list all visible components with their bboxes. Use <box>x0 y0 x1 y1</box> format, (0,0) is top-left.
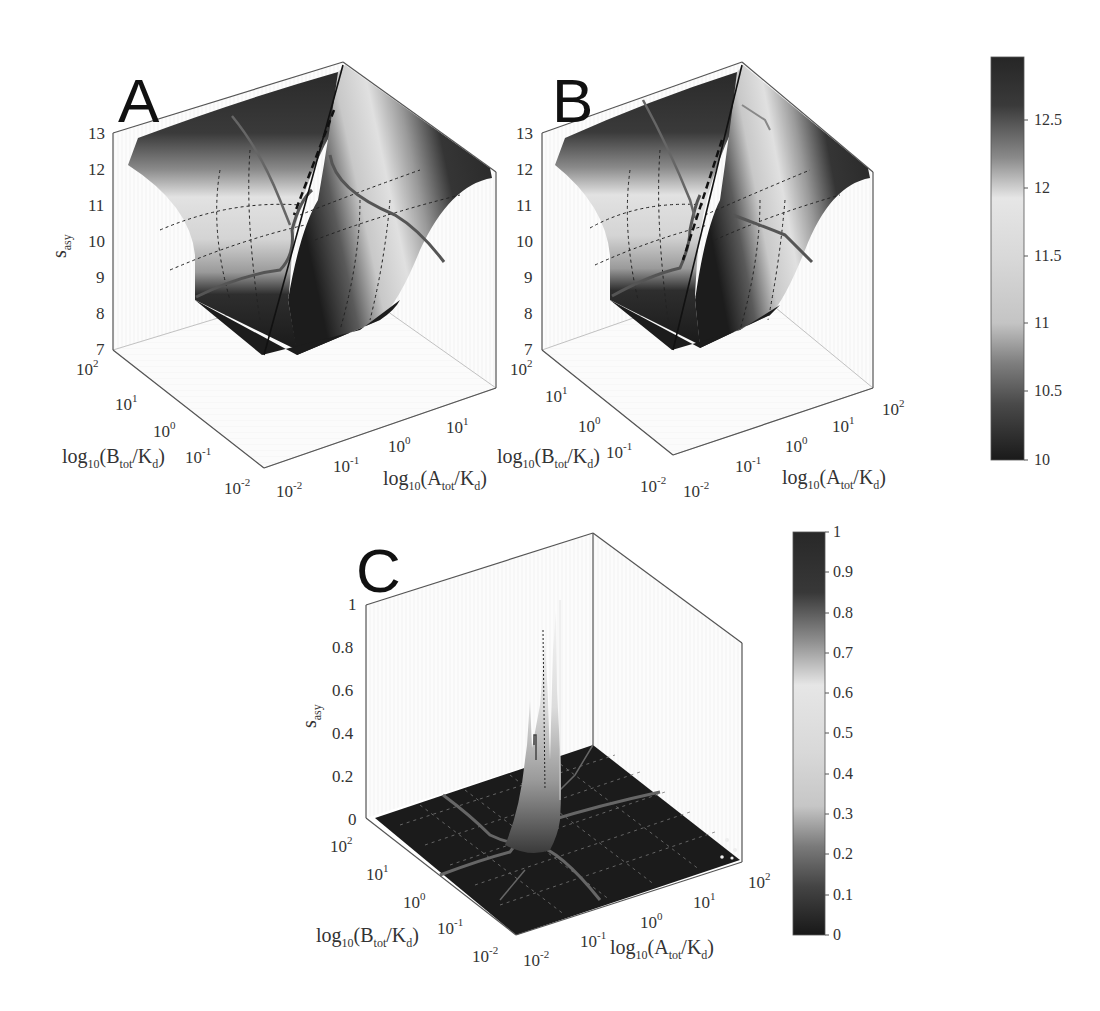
svg-text:11.5: 11.5 <box>1034 247 1061 264</box>
panel-b: 13 12 11 10 9 8 7 102 101 100 10-1 10-2 … <box>497 62 905 501</box>
svg-text:9: 9 <box>524 268 533 287</box>
svg-text:8: 8 <box>96 304 105 323</box>
svg-text:102: 102 <box>330 834 353 856</box>
svg-text:1: 1 <box>833 523 841 540</box>
svg-text:10-2: 10-2 <box>683 479 709 501</box>
svg-text:101: 101 <box>693 890 716 912</box>
svg-text:0.2: 0.2 <box>332 767 353 786</box>
svg-text:0.3: 0.3 <box>833 805 853 822</box>
y-axis-label: log10(Btot/Kd) <box>62 445 165 471</box>
svg-text:10-1: 10-1 <box>580 929 606 951</box>
z-axis-ticks: 13 12 11 10 9 8 7 <box>88 124 105 359</box>
svg-text:13: 13 <box>516 124 533 143</box>
colorbar-ab: 10 10.5 11 11.5 12 12.5 <box>991 57 1062 468</box>
svg-text:102: 102 <box>748 870 771 892</box>
svg-text:9: 9 <box>96 268 105 287</box>
svg-text:10-1: 10-1 <box>606 440 632 462</box>
figure-canvas: 13 12 11 10 9 8 7 sasy 102 101 100 10-1 … <box>0 0 1100 1011</box>
svg-text:12: 12 <box>516 160 533 179</box>
panel-letter-b: B <box>552 66 593 135</box>
svg-text:12: 12 <box>88 160 105 179</box>
svg-text:101: 101 <box>366 862 389 884</box>
svg-text:10-2: 10-2 <box>640 474 666 496</box>
z-axis-label: sasy <box>48 234 74 258</box>
svg-text:100: 100 <box>785 434 808 456</box>
svg-text:0: 0 <box>348 810 357 829</box>
svg-text:102: 102 <box>882 397 905 419</box>
svg-text:11: 11 <box>516 196 532 215</box>
panel-letter-a: A <box>118 66 160 135</box>
y-axis-label: log10(Btot/Kd) <box>497 445 600 471</box>
x-axis-label: log10(Atot/Kd) <box>383 467 487 493</box>
colorbar-c-tickmarks <box>825 532 829 935</box>
svg-text:10-2: 10-2 <box>224 476 250 498</box>
svg-text:10: 10 <box>88 232 105 251</box>
svg-text:101: 101 <box>446 415 469 437</box>
svg-text:0.4: 0.4 <box>833 765 853 782</box>
svg-text:11: 11 <box>88 196 104 215</box>
svg-text:11: 11 <box>1034 314 1049 331</box>
svg-text:0.7: 0.7 <box>833 644 853 661</box>
z-axis-ticks: 1 0.8 0.6 0.4 0.2 0 <box>332 595 357 829</box>
colorbar-c-gradient <box>793 532 825 935</box>
svg-text:12: 12 <box>1034 179 1050 196</box>
svg-text:10-1: 10-1 <box>185 445 211 467</box>
svg-text:10-2: 10-2 <box>523 948 549 970</box>
svg-text:10: 10 <box>1034 451 1050 468</box>
svg-text:0.2: 0.2 <box>833 845 853 862</box>
svg-text:10-1: 10-1 <box>333 454 359 476</box>
z-axis-ticks: 13 12 11 10 9 8 7 <box>516 124 533 359</box>
svg-text:0.8: 0.8 <box>833 604 853 621</box>
svg-text:100: 100 <box>388 434 411 456</box>
svg-text:101: 101 <box>832 414 855 436</box>
svg-text:101: 101 <box>115 392 138 414</box>
svg-text:10-2: 10-2 <box>276 479 302 501</box>
svg-text:8: 8 <box>524 304 533 323</box>
panel-letter-c: C <box>356 536 401 605</box>
svg-text:10-1: 10-1 <box>437 916 463 938</box>
svg-text:100: 100 <box>403 890 426 912</box>
z-axis-label: sasy <box>298 704 324 728</box>
x-axis-label: log10(Atot/Kd) <box>610 936 714 962</box>
svg-text:100: 100 <box>578 414 601 436</box>
colorbar-c: 0 0.1 0.2 0.3 0.4 0.5 0.6 0.7 0.8 0.9 1 <box>793 523 853 943</box>
y-axis-label: log10(Btot/Kd) <box>316 924 419 950</box>
svg-text:102: 102 <box>510 357 533 379</box>
svg-text:0.1: 0.1 <box>833 886 853 903</box>
panel-c: 1 0.8 0.6 0.4 0.2 0 sasy 102 101 100 10-… <box>298 533 771 970</box>
svg-text:100: 100 <box>153 419 176 441</box>
svg-text:10-1: 10-1 <box>735 454 761 476</box>
svg-text:0.8: 0.8 <box>332 638 353 657</box>
svg-text:12.5: 12.5 <box>1034 111 1062 128</box>
svg-text:13: 13 <box>88 124 105 143</box>
svg-text:102: 102 <box>76 357 99 379</box>
svg-text:0.9: 0.9 <box>833 563 853 580</box>
svg-text:0.6: 0.6 <box>833 684 853 701</box>
panel-a: 13 12 11 10 9 8 7 sasy 102 101 100 10-1 … <box>48 62 496 501</box>
svg-text:101: 101 <box>545 384 568 406</box>
x-axis-label: log10(Atot/Kd) <box>782 466 886 492</box>
svg-text:0.4: 0.4 <box>332 724 354 743</box>
svg-text:0.5: 0.5 <box>833 724 853 741</box>
svg-text:10.5: 10.5 <box>1034 382 1062 399</box>
colorbar-ab-tickmarks <box>1024 120 1028 460</box>
svg-text:10: 10 <box>516 232 533 251</box>
colorbar-ab-gradient <box>991 57 1024 460</box>
svg-text:100: 100 <box>640 910 663 932</box>
svg-text:0: 0 <box>833 926 841 943</box>
svg-text:0.6: 0.6 <box>332 681 353 700</box>
svg-text:10-2: 10-2 <box>472 944 498 966</box>
